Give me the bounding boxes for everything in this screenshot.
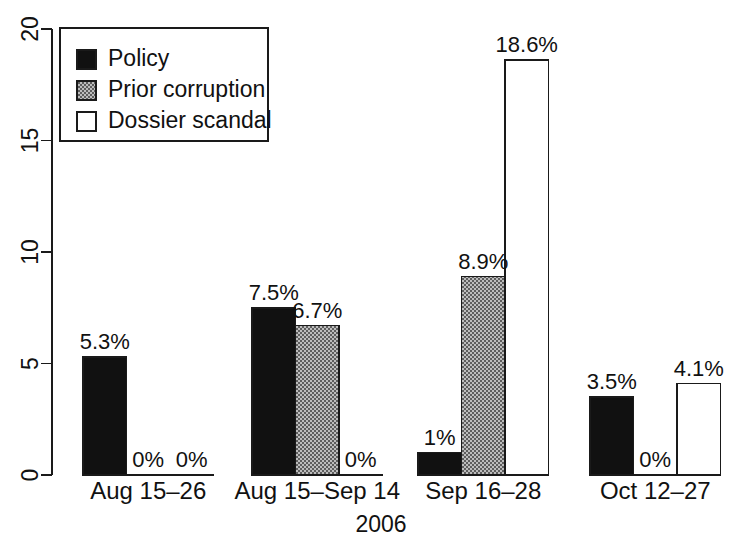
legend-swatch-prior-corruption [77,81,96,100]
legend-label: Policy [108,45,170,71]
legend-label: Prior corruption [108,76,265,102]
bar [590,397,634,475]
legend-label: Dossier scandal [108,107,272,133]
x-axis-category-label: Sep 16–28 [425,477,541,504]
legend-swatch-policy [77,50,96,69]
bar [83,357,127,475]
bar-value-label: 6.7% [292,298,342,323]
legend: PolicyPrior corruptionDossier scandal [60,28,272,141]
y-axis-tick-label: 5 [17,357,43,370]
bar-value-label: 0% [176,447,208,472]
bar [418,453,462,475]
bar-value-label: 5.3% [80,329,130,354]
bar-value-label: 8.9% [458,249,508,274]
x-axis-category-label: Aug 15–Sep 14 [235,477,400,504]
bar-value-label: 4.1% [674,356,724,381]
bar-chart: 05101520 5.3%7.5%1%3.5%0%6.7%8.9%0%0%0%1… [0,0,736,550]
y-axis-tick-label: 20 [17,16,43,42]
chart-canvas: 05101520 5.3%7.5%1%3.5%0%6.7%8.9%0%0%0%1… [0,0,736,550]
bar [677,384,721,475]
y-axis-tick-label: 15 [17,128,43,154]
bar [252,308,296,475]
y-axis-tick-label: 0 [17,469,43,482]
x-axis-title: 2006 [355,511,406,537]
bar [296,326,340,475]
bar-value-label: 3.5% [587,369,637,394]
y-axis-tick-label: 10 [17,239,43,265]
legend-swatch-dossier-scandal [77,112,96,131]
bar-value-label: 0% [345,447,377,472]
bar-value-label: 1% [424,425,456,450]
bar-value-label: 0% [132,447,164,472]
bar-value-label: 18.6% [496,32,558,57]
x-axis-category-label: Oct 12–27 [600,477,711,504]
bar-value-label: 0% [639,447,671,472]
bar [505,60,549,475]
x-axis-category-label: Aug 15–26 [90,477,206,504]
bar [462,277,506,475]
